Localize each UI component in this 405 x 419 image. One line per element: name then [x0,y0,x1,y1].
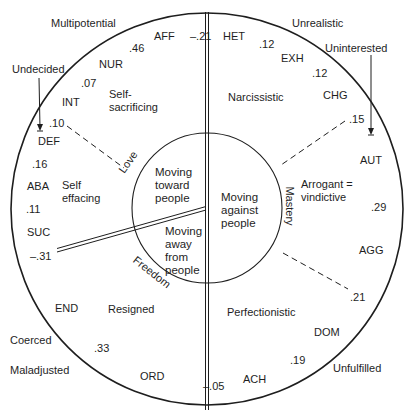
uninterested-label: Uninterested [325,42,387,54]
narcissistic-label: Narcissistic [228,91,284,103]
corr-aba-suc: .11 [26,203,40,215]
corr-het-aff: –.21 [190,30,211,42]
moving-away-from-people-label: Moving away from people [165,225,202,277]
need-aut: AUT [360,154,382,166]
corr-ach-dom: .19 [290,354,305,366]
corr-def-aba: .16 [32,158,47,170]
corr-exh-het: .12 [259,38,274,50]
resigned-label: Resigned [108,303,154,315]
inner-circle [132,133,282,283]
moving-against-people-label: Moving against people [221,191,258,230]
perfectionistic-label: Perfectionistic [227,306,295,318]
need-ord: ORD [140,370,164,382]
corr-agg-aut: .29 [371,201,386,213]
maladjusted-label: Maladjusted [10,364,69,376]
arrogant-vindictive-label: Arrogant = vindictive [301,178,353,204]
need-aba: ABA [27,180,49,192]
multipotential-label: Multipotential [51,17,116,29]
outer-circle [11,13,403,405]
corr-suc-end: –.31 [30,250,51,262]
need-dom: DOM [314,326,340,338]
corr-aut-chg: .15 [349,113,364,125]
need-int: INT [62,96,80,108]
mastery-lower-dashed-line [283,253,348,289]
mastery-upper-dashed-line [281,121,345,165]
corr-end-ord: .33 [94,342,109,354]
corr-ord-ach: –.05 [203,380,224,392]
needs-circle-diagram: Moving toward people Moving away from pe… [0,0,405,419]
corr-int-def: .10 [49,117,64,129]
unrealistic-label: Unrealistic [292,17,343,29]
need-ach: ACH [243,373,266,385]
need-end: END [55,302,78,314]
corr-aff-nur: .46 [129,42,144,54]
need-het: HET [223,30,245,42]
self-sacrificing-label: Self- sacrificing [109,88,158,114]
self-effacing-label: Self effacing [62,179,100,205]
mastery-axis-label: Mastery [284,186,296,225]
need-suc: SUC [27,226,50,238]
need-exh: EXH [281,52,304,64]
moving-toward-people-label: Moving toward people [155,166,192,205]
uninterested-arrow-icon [368,55,374,135]
need-aff: AFF [154,30,175,42]
vertical-divider [206,12,209,410]
unfulfilled-label: Unfulfilled [333,362,381,374]
corr-dom-agg: .21 [350,291,365,303]
love-dashed-line [67,126,124,168]
undecided-label: Undecided [12,63,65,75]
need-nur: NUR [99,58,123,70]
need-chg: CHG [323,89,347,101]
corr-chg-exh: .12 [312,67,327,79]
corr-nur-int: .07 [81,77,96,89]
coerced-label: Coerced [10,334,52,346]
need-agg: AGG [359,244,383,256]
need-def: DEF [38,135,60,147]
